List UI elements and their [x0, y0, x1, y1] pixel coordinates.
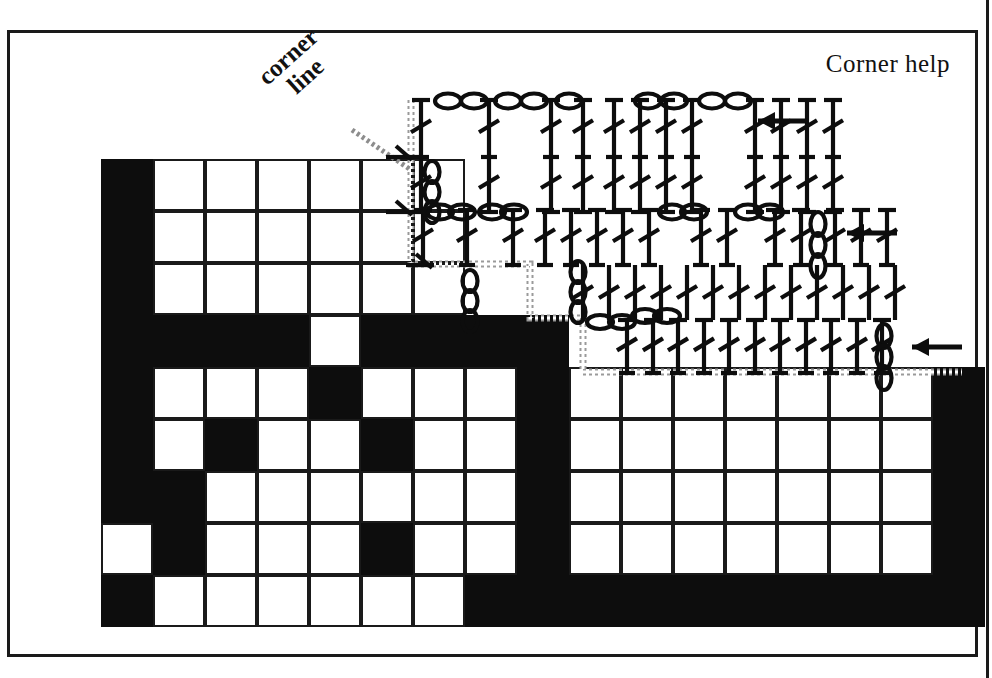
grid-cell-filled [153, 523, 205, 575]
grid-cell-open [205, 523, 257, 575]
grid-cell-open [621, 419, 673, 471]
grid-cell-open [101, 523, 153, 575]
grid-cell-open [465, 367, 517, 419]
grid-cell-open [621, 367, 673, 419]
grid-cell-open [465, 419, 517, 471]
grid-cell-open [257, 211, 309, 263]
grid-cell-open [257, 575, 309, 627]
grid-cell-open [205, 367, 257, 419]
grid-cell-filled [205, 419, 257, 471]
grid-cell-open [309, 419, 361, 471]
page-title: Corner help [826, 50, 950, 78]
grid-cell-filled [621, 575, 673, 627]
grid-cell-filled [569, 575, 621, 627]
chart-page: Corner help corner line [0, 0, 992, 678]
grid-cell-open [361, 159, 413, 211]
grid-cell-filled [361, 315, 413, 367]
grid-cell-open [413, 575, 465, 627]
page-frame-outer-edge [986, 0, 989, 678]
grid-cell-open [881, 471, 933, 523]
grid-cell-filled [413, 315, 465, 367]
grid-cell-open [309, 159, 361, 211]
grid-cell-open [257, 419, 309, 471]
grid-cell-open [829, 523, 881, 575]
grid-cell-open [569, 367, 621, 419]
grid-cell-open [829, 419, 881, 471]
grid-cell-filled [361, 523, 413, 575]
grid-cell-filled [101, 263, 153, 315]
grid-cell-open [205, 263, 257, 315]
grid-cell-filled [517, 575, 569, 627]
grid-cell-open [725, 367, 777, 419]
grid-cell-open [153, 367, 205, 419]
grid-cell-open [257, 263, 309, 315]
grid-cell-filled [517, 315, 569, 367]
grid-cell-filled [829, 575, 881, 627]
grid-cell-open [881, 419, 933, 471]
grid-cell-open [725, 419, 777, 471]
grid-cell-filled [673, 575, 725, 627]
grid-cell-filled [361, 419, 413, 471]
grid-cell-open [257, 471, 309, 523]
grid-cell-open [309, 575, 361, 627]
grid-cell-open [257, 523, 309, 575]
grid-cell-open [569, 471, 621, 523]
grid-cell-filled [517, 471, 569, 523]
grid-cell-filled [517, 367, 569, 419]
grid-cell-filled [933, 471, 985, 523]
grid-cell-filled [465, 315, 517, 367]
grid-cell-filled [933, 575, 985, 627]
grid-cell-open [621, 471, 673, 523]
grid-cell-open [205, 575, 257, 627]
grid-cell-open [829, 367, 881, 419]
grid-cell-filled [933, 419, 985, 471]
grid-cell-filled [309, 367, 361, 419]
grid-cell-filled [777, 575, 829, 627]
grid-cell-open [361, 263, 413, 315]
grid-cell-open [413, 263, 465, 315]
grid-cell-open [777, 523, 829, 575]
grid-cell-open [413, 523, 465, 575]
grid-cell-filled [933, 523, 985, 575]
grid-cell-open [361, 471, 413, 523]
grid-cell-open [673, 419, 725, 471]
grid-cell-open [361, 367, 413, 419]
grid-cell-open [725, 523, 777, 575]
grid-cell-filled [517, 523, 569, 575]
grid-cell-open [673, 471, 725, 523]
grid-cell-filled [153, 471, 205, 523]
grid-cell-open [881, 523, 933, 575]
grid-cell-open [205, 471, 257, 523]
grid-cell-open [413, 419, 465, 471]
grid-cell-filled [101, 367, 153, 419]
grid-cell-open [569, 523, 621, 575]
grid-cell-filled [153, 315, 205, 367]
grid-cell-open [413, 367, 465, 419]
grid-cell-filled [205, 315, 257, 367]
grid-cell-open [777, 367, 829, 419]
grid-cell-open [361, 211, 413, 263]
grid-cell-open [309, 211, 361, 263]
grid-cell-open [413, 471, 465, 523]
grid-cell-filled [101, 159, 153, 211]
grid-cell-filled [101, 575, 153, 627]
grid-cell-open [569, 419, 621, 471]
grid-cell-open [309, 263, 361, 315]
grid-cell-open [153, 575, 205, 627]
grid-cell-open [205, 211, 257, 263]
grid-cell-open [777, 419, 829, 471]
grid-cell-filled [933, 367, 985, 419]
grid-cell-open [881, 367, 933, 419]
grid-cell-open [413, 159, 465, 211]
grid-cell-filled [101, 315, 153, 367]
grid-cell-open [465, 523, 517, 575]
grid-cell-filled [725, 575, 777, 627]
grid-cell-open [153, 159, 205, 211]
grid-cell-open [153, 419, 205, 471]
grid-cell-open [465, 471, 517, 523]
grid-cell-filled [465, 575, 517, 627]
grid-cell-open [309, 523, 361, 575]
grid-cell-filled [101, 211, 153, 263]
grid-cell-filled [257, 315, 309, 367]
grid-cell-open [257, 367, 309, 419]
